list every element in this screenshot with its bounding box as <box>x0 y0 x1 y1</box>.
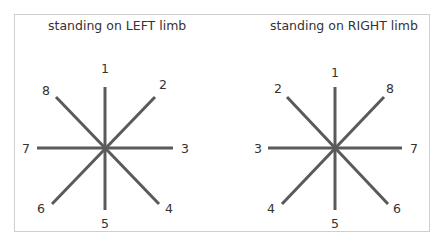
right-label-7: 7 <box>410 141 418 156</box>
right-star <box>268 87 402 210</box>
left-star <box>37 87 173 210</box>
right-label-5: 5 <box>331 216 339 231</box>
right-label-3: 3 <box>254 141 262 156</box>
left-label-8: 8 <box>42 83 50 98</box>
right-label-8: 8 <box>386 81 394 96</box>
right-label-4: 4 <box>267 201 275 216</box>
right-label-6: 6 <box>393 201 401 216</box>
right-label-2: 2 <box>274 81 282 96</box>
left-label-6: 6 <box>37 201 45 216</box>
left-label-1: 1 <box>101 61 109 76</box>
right-label-1: 1 <box>331 65 339 80</box>
left-label-2: 2 <box>159 77 167 92</box>
left-label-3: 3 <box>181 141 189 156</box>
star-excursion-diagrams: 1 2 3 4 5 6 7 8 1 2 3 4 5 6 7 8 <box>0 0 441 244</box>
left-label-4: 4 <box>165 201 173 216</box>
left-label-5: 5 <box>101 216 109 231</box>
left-label-7: 7 <box>22 141 30 156</box>
